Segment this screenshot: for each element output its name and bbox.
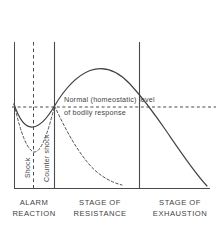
stage-resistance-line-1: STAGE OF bbox=[62, 198, 138, 209]
baseline-note-line-2: of bodily response bbox=[64, 108, 126, 119]
stage-label-exhaustion: STAGE OF EXHAUSTION bbox=[142, 198, 218, 219]
shock-label: Shock bbox=[24, 158, 31, 178]
stage-exhaustion-line-2: EXHAUSTION bbox=[142, 209, 218, 220]
stage-label-resistance: STAGE OF RESISTANCE bbox=[62, 198, 138, 219]
stage-alarm-line-2: REACTION bbox=[8, 209, 60, 220]
countershock-label: Counter shock bbox=[43, 134, 50, 182]
stage-label-alarm-reaction: ALARM REACTION bbox=[8, 198, 60, 219]
gas-diagram: Normal (homeostatic) level of bodily res… bbox=[0, 0, 220, 233]
stage-exhaustion-line-1: STAGE OF bbox=[142, 198, 218, 209]
baseline-note-line-1: Normal (homeostatic) level bbox=[64, 95, 155, 106]
stage-alarm-line-1: ALARM bbox=[8, 198, 60, 209]
stage-resistance-line-2: RESISTANCE bbox=[62, 209, 138, 220]
